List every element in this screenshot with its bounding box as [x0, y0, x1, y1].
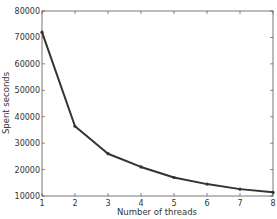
- x-tick-label: 8: [270, 199, 275, 208]
- data-point: [139, 165, 142, 168]
- data-point: [271, 191, 274, 194]
- plot-border: [42, 11, 273, 196]
- y-tick-label: 30000: [15, 139, 40, 148]
- y-tick-label: 80000: [15, 7, 40, 16]
- plot-area: [42, 11, 273, 196]
- y-tick-label: 50000: [15, 86, 40, 95]
- x-axis-label: Number of threads: [117, 207, 198, 217]
- data-point: [40, 31, 43, 34]
- data-point: [238, 188, 241, 191]
- data-point: [73, 125, 76, 128]
- x-tick-label: 3: [105, 199, 110, 208]
- data-point: [172, 176, 175, 179]
- x-tick-label: 7: [237, 199, 242, 208]
- x-tick-label: 1: [39, 199, 44, 208]
- y-tick-label: 20000: [15, 166, 40, 175]
- y-tick-label: 40000: [15, 113, 40, 122]
- data-point: [205, 183, 208, 186]
- y-tick-label: 60000: [15, 60, 40, 69]
- line-chart: 1000020000300004000050000600007000080000…: [0, 0, 277, 219]
- x-tick-label: 2: [72, 199, 77, 208]
- y-tick-label: 10000: [15, 192, 40, 201]
- y-tick-label: 70000: [15, 33, 40, 42]
- data-point: [106, 152, 109, 155]
- x-tick-label: 6: [204, 199, 209, 208]
- y-axis-label: Spent seconds: [1, 71, 11, 134]
